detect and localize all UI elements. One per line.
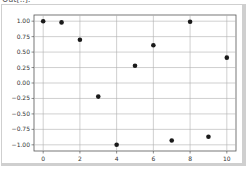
data-point: [169, 138, 174, 143]
data-point: [78, 37, 83, 42]
x-tick-label: 0: [41, 155, 45, 162]
y-tick-label: 0.50: [17, 48, 31, 55]
y-tick-label: 1.00: [17, 17, 31, 24]
x-tick-label: 2: [78, 155, 82, 162]
data-point: [133, 63, 138, 68]
data-point: [206, 134, 211, 139]
x-tick-label: 8: [188, 155, 192, 162]
y-tick-label: 0.00: [17, 79, 31, 86]
data-point: [188, 20, 193, 25]
data-point: [114, 143, 119, 148]
x-tick-label: 10: [223, 155, 231, 162]
data-point: [59, 20, 64, 25]
data-point: [96, 94, 101, 99]
y-tick-label: −1.00: [12, 141, 31, 148]
y-tick-label: −0.75: [12, 125, 31, 132]
y-axis-ticks: 1.000.750.500.250.00−0.25−0.50−0.75−1.00: [12, 17, 34, 148]
x-tick-label: 4: [115, 155, 119, 162]
data-point: [41, 19, 46, 24]
y-tick-label: −0.25: [12, 94, 31, 101]
scatter-chart: 1.000.750.500.250.00−0.25−0.50−0.75−1.00…: [0, 0, 250, 170]
data-point: [225, 55, 230, 60]
y-tick-label: −0.50: [12, 110, 31, 117]
y-tick-label: 0.25: [17, 64, 31, 71]
x-axis-ticks: 0246810: [41, 151, 231, 162]
y-tick-label: 0.75: [17, 33, 31, 40]
data-point: [151, 43, 156, 48]
x-tick-label: 6: [151, 155, 155, 162]
